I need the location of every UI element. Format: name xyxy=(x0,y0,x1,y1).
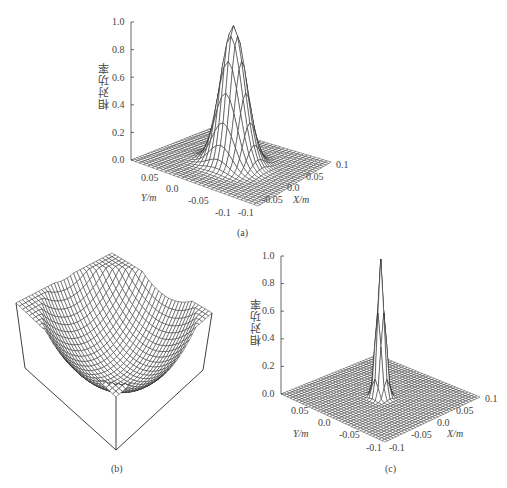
z-tick-c-0.6: 0.6 xyxy=(262,306,275,316)
x-axis-label-c: X/m xyxy=(447,429,463,439)
y-tick-a-0.0: 0.0 xyxy=(166,184,179,194)
z-tick-c-1.0: 1.0 xyxy=(262,251,275,261)
x-tick-c-0.05: 0.05 xyxy=(456,406,474,416)
x-tick-c--0.05: -0.05 xyxy=(411,430,432,440)
caption-c: (c) xyxy=(385,463,396,474)
z-axis-label-a: 相对功率 xyxy=(96,62,112,110)
x-tick-a-0.1: 0.1 xyxy=(336,160,349,170)
y-tick-c-0.0: 0.0 xyxy=(318,418,331,428)
caption-a: (a) xyxy=(237,227,248,238)
z-tick-a-0.4: 0.4 xyxy=(112,100,125,110)
z-tick-c-0.8: 0.8 xyxy=(262,278,275,288)
x-tick-c-0.0: 0.0 xyxy=(437,418,450,428)
z-tick-a-0.0: 0.0 xyxy=(112,155,125,165)
z-tick-a-0.6: 0.6 xyxy=(112,73,125,83)
x-tick-a--0.05: -0.05 xyxy=(262,195,283,205)
y-axis-label-c: Y/m xyxy=(293,429,309,439)
surface-plot-b xyxy=(16,253,212,450)
z-tick-c-0.0: 0.0 xyxy=(262,389,275,399)
x-tick-a--0.1: -0.1 xyxy=(238,208,254,218)
y-tick-c--0.1: -0.1 xyxy=(366,443,382,453)
y-axis-label-a: Y/m xyxy=(141,193,157,203)
y-tick-c-0.05: 0.05 xyxy=(291,406,309,416)
z-tick-c-0.4: 0.4 xyxy=(262,333,275,343)
x-tick-a-0.05: 0.05 xyxy=(306,172,324,182)
y-tick-a--0.1: -0.1 xyxy=(215,208,231,218)
figure-canvas xyxy=(0,0,507,488)
x-tick-c-0.1: 0.1 xyxy=(485,394,498,404)
z-tick-c-0.2: 0.2 xyxy=(262,361,275,371)
y-tick-a--0.05: -0.05 xyxy=(188,196,209,206)
surface-plot-c xyxy=(281,256,480,442)
caption-b: (b) xyxy=(111,463,123,474)
y-tick-c--0.05: -0.05 xyxy=(339,430,360,440)
surface-plot-a xyxy=(131,22,331,206)
y-tick-a-0.05: 0.05 xyxy=(141,173,159,183)
x-tick-c--0.1: -0.1 xyxy=(389,443,405,453)
z-tick-a-0.2: 0.2 xyxy=(112,128,125,138)
z-tick-a-1.0: 1.0 xyxy=(112,17,125,27)
x-axis-label-a: X/m xyxy=(293,195,309,205)
x-tick-a-0.0: 0.0 xyxy=(287,183,300,193)
z-tick-a-0.8: 0.8 xyxy=(112,45,125,55)
